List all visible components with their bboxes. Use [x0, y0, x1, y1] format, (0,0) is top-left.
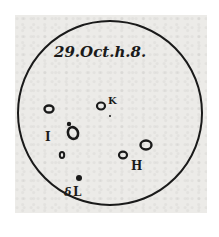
spot-h: H: [119, 152, 142, 173]
spot-k: K: [97, 95, 117, 117]
spot-unlabeled-3: [141, 141, 152, 150]
label-h: H: [131, 159, 142, 173]
spot-unlabeled-2: [60, 152, 64, 158]
date-title: 29.Oct.h.8.: [53, 43, 146, 61]
label-l: L: [73, 185, 82, 199]
label-i: I: [45, 130, 51, 144]
spot-l: δ L: [63, 175, 82, 199]
spot-i-group: I: [45, 122, 80, 144]
label-l-prefix: δ: [63, 186, 71, 199]
label-k: K: [108, 95, 117, 106]
spot-unlabeled-1: [45, 106, 54, 113]
sunspot-drawing: 29.Oct.h.8. K I H δ L: [0, 0, 219, 237]
